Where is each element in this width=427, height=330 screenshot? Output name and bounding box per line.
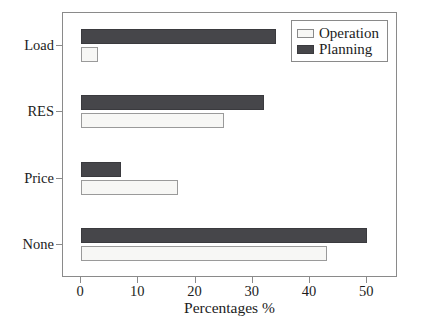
legend-entry-planning: Planning bbox=[297, 41, 379, 57]
x-tick-label-50: 50 bbox=[346, 284, 386, 299]
legend-entry-operation: Operation bbox=[297, 25, 379, 41]
y-tick-price bbox=[56, 178, 62, 179]
bar-group-res bbox=[63, 79, 396, 145]
bar-operation-none bbox=[81, 246, 327, 261]
x-tick-label-20: 20 bbox=[175, 284, 215, 299]
x-tick-label-30: 30 bbox=[232, 284, 272, 299]
bar-chart: Operation Planning 01020304050 Percentag… bbox=[0, 0, 427, 330]
bar-planning-load bbox=[81, 29, 276, 44]
x-tick-label-0: 0 bbox=[60, 284, 100, 299]
y-tick-label-load: Load bbox=[0, 38, 54, 53]
x-tick-label-40: 40 bbox=[289, 284, 329, 299]
bar-operation-load bbox=[81, 47, 98, 62]
plot-frame: Operation Planning bbox=[62, 12, 397, 277]
chart-legend: Operation Planning bbox=[291, 20, 388, 62]
bar-group-price bbox=[63, 146, 396, 212]
x-tick-label-10: 10 bbox=[117, 284, 157, 299]
planning-swatch-icon bbox=[297, 45, 314, 54]
bar-operation-price bbox=[81, 180, 178, 195]
y-tick-label-res: RES bbox=[0, 104, 54, 119]
bar-planning-price bbox=[81, 162, 121, 177]
operation-swatch-icon bbox=[297, 29, 314, 38]
bar-group-none bbox=[63, 212, 396, 278]
y-tick-res bbox=[56, 111, 62, 112]
bar-operation-res bbox=[81, 113, 224, 128]
legend-label-planning: Planning bbox=[319, 42, 372, 57]
y-tick-none bbox=[56, 244, 62, 245]
bar-planning-res bbox=[81, 95, 264, 110]
y-tick-load bbox=[56, 45, 62, 46]
y-tick-label-none: None bbox=[0, 237, 54, 252]
bar-planning-none bbox=[81, 228, 367, 243]
legend-label-operation: Operation bbox=[319, 26, 379, 41]
x-axis-title: Percentages % bbox=[62, 300, 397, 316]
y-tick-label-price: Price bbox=[0, 171, 54, 186]
